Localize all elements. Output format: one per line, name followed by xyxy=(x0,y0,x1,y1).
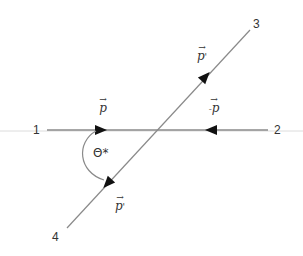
particle-label-2: 2 xyxy=(274,124,281,136)
particle-label-3: 3 xyxy=(253,18,260,30)
momentum-label-p: → p xyxy=(96,96,110,114)
momentum-label-minus-p: → -p xyxy=(205,96,223,115)
momentum-label-p-prime-4: → p' xyxy=(111,194,129,213)
arrow-right-icon xyxy=(95,125,107,135)
scattering-diagram xyxy=(0,0,303,256)
scatter-line-3-4 xyxy=(67,30,250,228)
arrow-up-right-icon xyxy=(198,69,213,85)
angle-label-theta-star: Θ* xyxy=(93,146,108,160)
particle-label-4: 4 xyxy=(52,231,59,243)
momentum-label-p-prime-3: → p' xyxy=(193,44,211,63)
particle-label-1: 1 xyxy=(33,124,40,136)
arrow-left-icon xyxy=(205,125,217,135)
